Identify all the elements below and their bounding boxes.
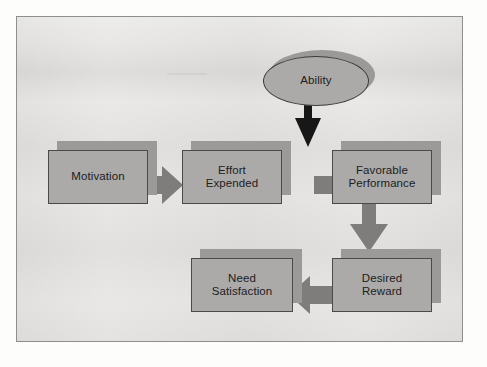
node-motivation-box[interactable]: Motivation xyxy=(48,150,148,204)
node-desired-reward-label: Desired Reward xyxy=(362,272,402,299)
node-favorable-performance[interactable]: Favorable Performance xyxy=(332,141,442,205)
node-ability[interactable]: Ability xyxy=(257,50,377,110)
node-need-satisfaction-box[interactable]: Need Satisfaction xyxy=(191,258,293,312)
node-motivation[interactable]: Motivation xyxy=(48,141,158,205)
node-ability-shape[interactable]: Ability xyxy=(263,56,369,106)
node-desired-reward[interactable]: Desired Reward xyxy=(332,249,442,313)
node-need-satisfaction-label: Need Satisfaction xyxy=(212,272,273,299)
node-effort-expended-label: Effort Expended xyxy=(206,164,259,191)
node-desired-reward-box[interactable]: Desired Reward xyxy=(332,258,432,312)
scan-speck xyxy=(167,73,207,75)
node-need-satisfaction[interactable]: Need Satisfaction xyxy=(191,249,303,313)
figure-root: Ability xyxy=(0,0,487,367)
diagram-panel: Ability xyxy=(16,16,463,342)
node-effort-expended[interactable]: Effort Expended xyxy=(182,141,292,205)
node-favorable-performance-box[interactable]: Favorable Performance xyxy=(332,150,432,204)
node-effort-expended-box[interactable]: Effort Expended xyxy=(182,150,282,204)
node-motivation-label: Motivation xyxy=(71,170,124,184)
node-favorable-performance-label: Favorable Performance xyxy=(349,164,416,191)
node-ability-label: Ability xyxy=(300,74,331,88)
